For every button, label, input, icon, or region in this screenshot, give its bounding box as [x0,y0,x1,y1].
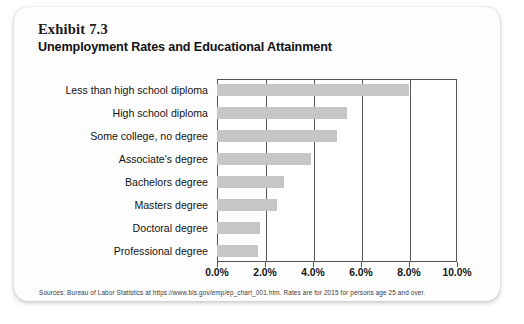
bar [217,107,347,119]
exhibit-card: Exhibit 7.3 Unemployment Rates and Educa… [14,7,500,301]
category-label: High school diploma [34,102,214,125]
bar-row [217,193,457,216]
bar [217,130,337,142]
axis-tick-label: 6.0% [349,267,372,278]
axis-tick-label: 10.0% [442,267,471,278]
category-label: Less than high school diploma [34,79,214,102]
chart-title: Unemployment Rates and Educational Attai… [38,40,332,54]
bar-row [217,125,457,148]
value-axis-labels: 0.0%2.0%4.0%6.0%8.0%10.0% [217,267,457,283]
category-label: Doctoral degree [34,216,214,239]
bar-series [217,79,457,262]
axis-tick-label: 2.0% [253,267,276,278]
bar-row [217,148,457,171]
category-label: Some college, no degree [34,125,214,148]
bar-row [217,216,457,239]
bar [217,222,260,234]
bar-row [217,79,457,102]
category-label: Masters degree [34,193,214,216]
bar-row [217,239,457,262]
bar [217,84,409,96]
chart-plot-area [217,79,457,262]
category-label: Professional degree [34,239,214,262]
category-axis-labels: Less than high school diplomaHigh school… [34,79,214,262]
bar [217,176,284,188]
source-note: Sources: Bureau of Labor Statistics at h… [39,288,478,297]
bar-row [217,171,457,194]
axis-tick-label: 0.0% [205,267,228,278]
bar [217,245,258,257]
bar [217,199,277,211]
category-label: Bachelors degree [34,171,214,194]
bar [217,153,311,165]
bar-row [217,102,457,125]
exhibit-label: Exhibit 7.3 [38,21,108,38]
category-label: Associate's degree [34,148,214,171]
axis-tick-label: 4.0% [301,267,324,278]
axis-tick-label: 8.0% [397,267,420,278]
